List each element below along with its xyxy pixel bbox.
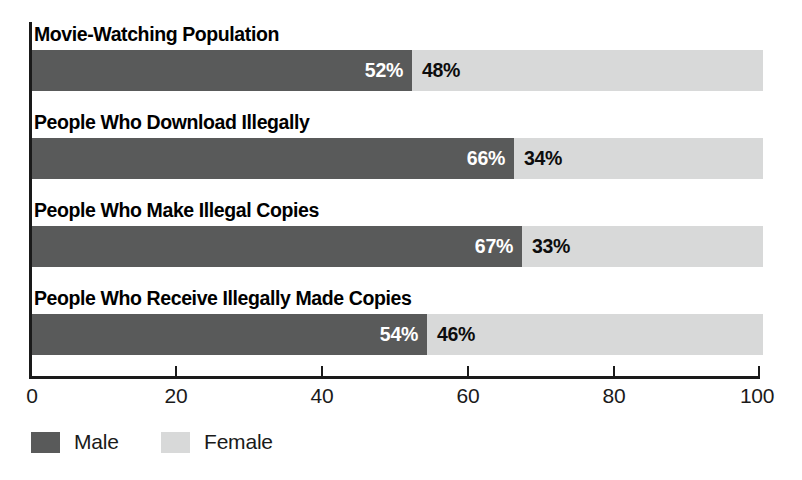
bar-value-female: 48% [422,50,460,91]
bar-track: 54% 46% [32,314,763,355]
x-tick-100 [758,366,760,377]
bar-category-label: People Who Receive Illegally Made Copies [34,286,411,310]
bar-segment-female[interactable]: 48% [412,50,763,91]
x-tick-label-100: 100 [740,384,774,408]
bar-segment-female[interactable]: 34% [514,138,763,179]
bar-category-label: People Who Download Illegally [34,110,310,134]
stacked-bar-chart: 0 20 40 60 80 100 Movie-Watching Populat… [0,0,802,480]
x-tick-label-60: 60 [457,384,480,408]
x-tick-0 [30,366,32,377]
bar-track: 67% 33% [32,226,763,267]
x-tick-label-80: 80 [603,384,626,408]
bar-value-male: 67% [475,226,513,267]
bar-segment-male[interactable]: 67% [32,226,522,267]
bar-segment-male[interactable]: 54% [32,314,427,355]
bar-track: 52% 48% [32,50,763,91]
bar-track: 66% 34% [32,138,763,179]
bar-value-female: 33% [532,226,570,267]
legend-item-male[interactable]: Male [31,428,119,456]
bar-segment-male[interactable]: 66% [32,138,514,179]
bar-value-female: 46% [437,314,475,355]
x-tick-80 [613,366,615,377]
bar-segment-male[interactable]: 52% [32,50,412,91]
legend-label-male: Male [74,430,119,454]
bar-value-male: 52% [365,50,403,91]
x-tick-label-20: 20 [165,384,188,408]
legend-label-female: Female [204,430,273,454]
bar-segment-female[interactable]: 46% [427,314,763,355]
bar-segment-female[interactable]: 33% [522,226,763,267]
x-tick-label-0: 0 [26,384,37,408]
x-tick-40 [321,366,323,377]
x-axis-spine [29,376,760,379]
bar-value-male: 54% [380,314,418,355]
legend-swatch-male-icon [31,432,60,453]
bar-category-label: Movie-Watching Population [34,22,279,46]
x-tick-60 [467,366,469,377]
bar-value-female: 34% [524,138,562,179]
legend-swatch-female-icon [161,432,190,453]
legend-item-female[interactable]: Female [161,428,273,456]
x-tick-label-40: 40 [311,384,334,408]
x-tick-20 [175,366,177,377]
bar-category-label: People Who Make Illegal Copies [34,198,319,222]
bar-value-male: 66% [467,138,505,179]
plot-area: 0 20 40 60 80 100 Movie-Watching Populat… [0,0,802,400]
